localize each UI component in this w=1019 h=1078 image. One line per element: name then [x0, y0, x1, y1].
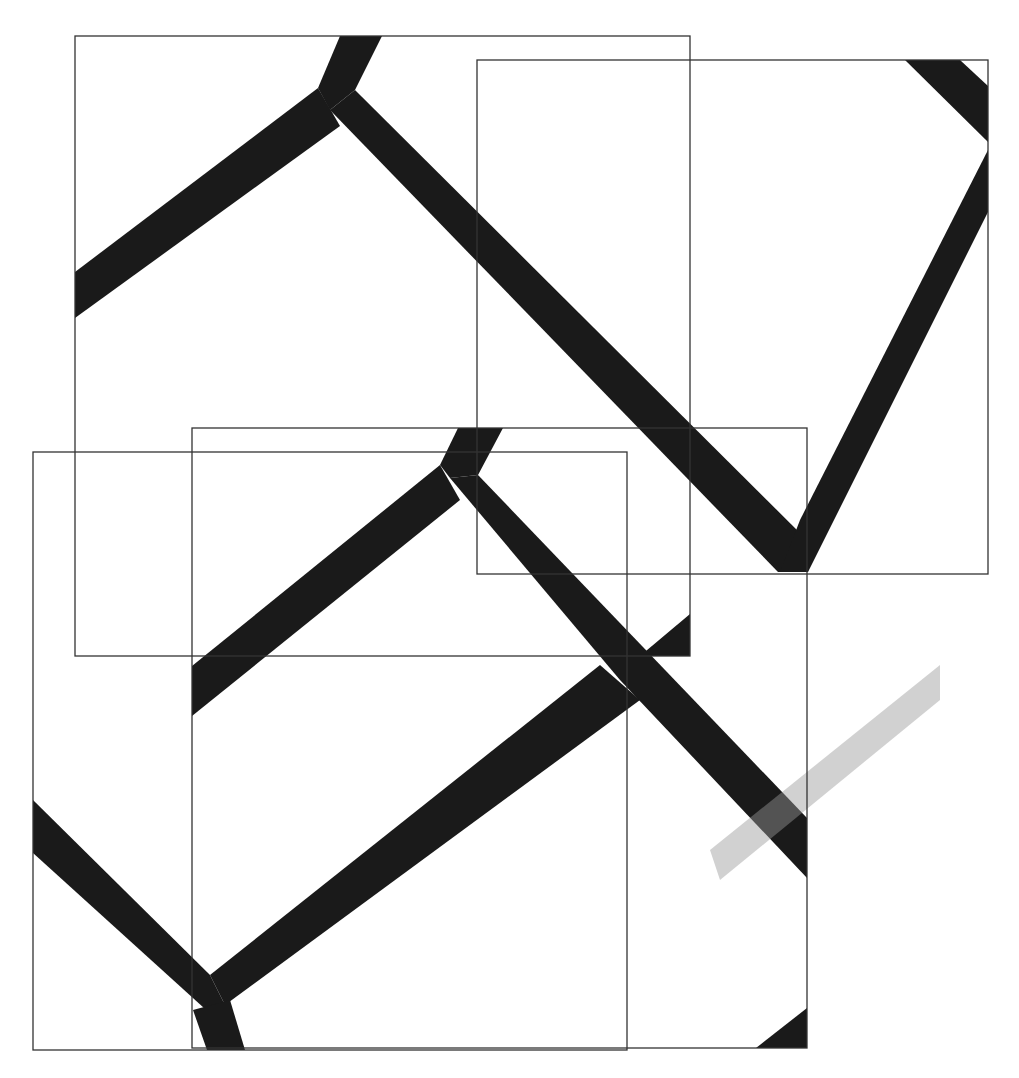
band-lower-long — [210, 665, 640, 1005]
band-lower-stem — [193, 1000, 245, 1050]
diagram-canvas — [0, 0, 1019, 1078]
band-r1-corner — [640, 614, 690, 656]
bands-layer — [33, 36, 988, 1050]
band-right-arm — [780, 150, 988, 572]
band-topright-corner — [905, 60, 988, 142]
band-mid-stem — [440, 428, 503, 478]
band-top-left-arm — [75, 88, 340, 318]
band-mid-left-arm — [192, 465, 460, 716]
band-bottom-right-corner — [756, 1008, 807, 1048]
band-lower-left-arm — [33, 800, 225, 1018]
